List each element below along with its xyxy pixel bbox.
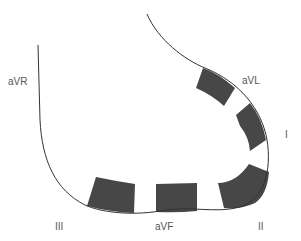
label-i: I xyxy=(285,130,288,140)
label-avf: aVF xyxy=(155,222,173,232)
lead-diagram xyxy=(0,0,301,241)
segment-avf xyxy=(156,183,197,212)
label-ii: II xyxy=(258,222,264,232)
label-avl: aVL xyxy=(242,76,260,86)
segment-i xyxy=(236,103,266,151)
label-iii: III xyxy=(55,222,63,232)
segment-avl xyxy=(196,68,235,106)
segment-ii xyxy=(218,164,269,208)
segment-iii xyxy=(87,177,135,213)
label-avr: aVR xyxy=(8,77,27,87)
